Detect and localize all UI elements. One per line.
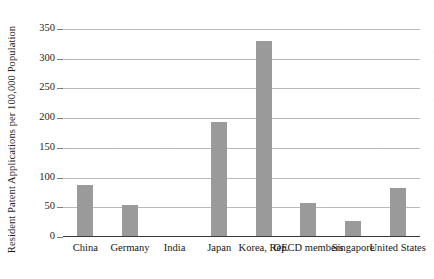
bar-series <box>63 29 420 237</box>
y-axis-tick-mark <box>57 207 63 208</box>
bar <box>256 41 272 237</box>
bar-chart: Resident Patent Applications per 100,000… <box>0 0 434 279</box>
y-axis-tick-label: 300 <box>3 53 55 64</box>
y-axis-tick-mark <box>57 29 63 30</box>
bar <box>300 203 316 237</box>
x-axis-category-label: United States <box>362 242 434 255</box>
bar <box>211 122 227 237</box>
bar <box>122 205 138 237</box>
bar <box>390 188 406 237</box>
bar <box>77 185 93 237</box>
y-axis-tick-label: 0 <box>3 231 55 242</box>
bar-group <box>197 29 242 237</box>
y-axis-tick-label: 150 <box>3 142 55 153</box>
plot-area <box>63 29 420 237</box>
y-axis-tick-mark <box>57 59 63 60</box>
bar-group <box>242 29 287 237</box>
bar-group <box>286 29 331 237</box>
bar-group <box>63 29 108 237</box>
y-axis-tick-mark <box>57 237 63 238</box>
y-axis-tick-mark <box>57 178 63 179</box>
y-axis-tick-label: 50 <box>3 201 55 212</box>
y-axis-tick-label: 250 <box>3 82 55 93</box>
y-axis-tick-mark <box>57 88 63 89</box>
y-axis-tick-mark <box>57 118 63 119</box>
y-axis-tick-label: 200 <box>3 112 55 123</box>
bar-group <box>331 29 376 237</box>
bar-group <box>108 29 153 237</box>
x-axis-line <box>63 236 420 237</box>
y-axis-tick-mark <box>57 148 63 149</box>
bar-group <box>152 29 197 237</box>
y-axis-tick-label: 350 <box>3 23 55 34</box>
bar-group <box>375 29 420 237</box>
bar <box>345 221 361 237</box>
y-axis-tick-label: 100 <box>3 172 55 183</box>
